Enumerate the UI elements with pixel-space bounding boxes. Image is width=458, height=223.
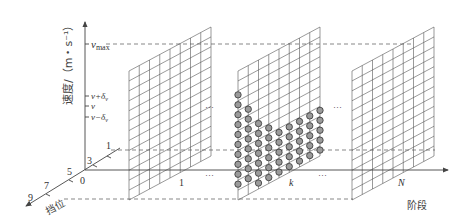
state-point <box>255 140 261 146</box>
state-point <box>307 133 313 139</box>
state-point <box>245 136 251 142</box>
gear-tick-7: 7 <box>44 180 49 191</box>
state-point <box>245 175 251 181</box>
state-point <box>296 128 302 134</box>
gear-axis-label: 挡位 <box>43 197 66 217</box>
ellipsis-axis-left: ··· <box>205 170 214 180</box>
state-point <box>245 156 251 162</box>
ellipsis-mid-left: ··· <box>205 102 214 112</box>
grid-stage-1 <box>129 27 211 200</box>
grid-stage-N <box>352 27 434 200</box>
state-point <box>296 118 302 124</box>
gear-tick-5: 5 <box>67 166 72 177</box>
velocity-tick-labels: vmax v+δv v v−δv <box>91 38 110 123</box>
state-point <box>235 102 241 108</box>
state-point <box>276 159 282 165</box>
state-point <box>235 92 241 98</box>
state-point <box>296 158 302 164</box>
state-point <box>317 147 323 153</box>
state-point <box>317 117 323 123</box>
state-point <box>286 134 292 140</box>
state-point <box>245 106 251 112</box>
state-point <box>245 166 251 172</box>
state-point <box>235 121 241 127</box>
state-point <box>255 160 261 166</box>
state-point <box>245 126 251 132</box>
state-point <box>276 139 282 145</box>
state-point <box>276 129 282 135</box>
gear-tick-9: 9 <box>28 192 33 203</box>
state-point <box>255 180 261 186</box>
state-point <box>317 107 323 113</box>
state-point <box>255 130 261 136</box>
state-point <box>245 146 251 152</box>
state-point <box>276 169 282 175</box>
ellipsis-mid-right: ··· <box>333 102 342 112</box>
velocity-axis-label: 速度/（m・s⁻¹） <box>61 20 75 105</box>
state-point <box>255 120 261 126</box>
state-point <box>296 138 302 144</box>
state-point <box>235 111 241 117</box>
gear-tick-3: 3 <box>87 155 92 166</box>
state-point <box>235 161 241 167</box>
tick-vmax: vmax <box>91 38 110 52</box>
state-point <box>235 151 241 157</box>
state-point <box>235 181 241 187</box>
tick-v-minus-delta: v−δv <box>91 112 108 123</box>
state-point <box>307 152 313 158</box>
gear-axis <box>26 148 120 206</box>
state-point <box>286 144 292 150</box>
state-point <box>307 123 313 129</box>
stage-tick-1: 1 <box>179 177 184 188</box>
dp-state-space-diagram: vmax v+δv v v−δv 速度/（m・s⁻¹） 1 3 5 7 9 挡位… <box>0 0 458 223</box>
state-point <box>245 116 251 122</box>
state-point <box>266 145 272 151</box>
state-point <box>235 171 241 177</box>
origin-label: 0 <box>80 175 85 186</box>
state-point <box>235 131 241 137</box>
state-point <box>235 141 241 147</box>
state-point <box>296 148 302 154</box>
state-point <box>317 127 323 133</box>
state-point <box>266 135 272 141</box>
tick-v: v <box>91 101 95 111</box>
state-point <box>276 149 282 155</box>
state-point <box>307 142 313 148</box>
state-point <box>255 170 261 176</box>
stage-axis-label: 阶段 <box>407 199 427 211</box>
stage-tick-k: k <box>289 177 294 188</box>
state-point <box>286 163 292 169</box>
stage-tick-N: N <box>397 177 406 188</box>
gear-tick-labels: 1 3 5 7 9 <box>28 140 111 203</box>
state-point <box>317 137 323 143</box>
state-point <box>266 155 272 161</box>
ellipsis-axis-right: ··· <box>318 170 327 180</box>
state-point <box>286 153 292 159</box>
state-point <box>266 125 272 131</box>
state-point <box>266 164 272 170</box>
state-point <box>286 124 292 130</box>
state-point <box>255 150 261 156</box>
state-point <box>307 113 313 119</box>
gear-tick-1: 1 <box>106 140 111 151</box>
state-point <box>266 174 272 180</box>
